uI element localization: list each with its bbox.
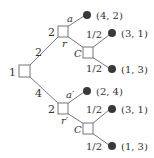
root-player-label: 1 [9, 66, 16, 79]
game-tree-diagram: 1 2 2 C C 2 4 a r a′ r′ 1/2 1/2 1/2 1/2 … [0, 0, 154, 158]
payoff-upper-chance-2: (1, 3) [121, 64, 148, 75]
lower-chance-label: C [74, 124, 82, 135]
lower-prob-1: 1/2 [86, 104, 102, 115]
root-node-box [19, 65, 30, 77]
terminal-dot-lower-accept [83, 87, 91, 95]
upper-reject-label: r [62, 38, 68, 49]
terminal-dot-upper-chance-2 [108, 65, 116, 73]
lower-player2-node-box [58, 103, 68, 114]
upper-player-label: 2 [48, 26, 55, 39]
edge-upper-reject [67, 36, 84, 48]
payoff-upper-accept: (4, 2) [96, 10, 123, 21]
terminal-dot-lower-chance-1 [108, 105, 116, 113]
root-edge-label-upper: 2 [35, 46, 42, 59]
upper-player2-node-box [58, 26, 68, 37]
edge-root-to-upper [29, 36, 59, 66]
payoff-upper-chance-1: (3, 1) [121, 28, 148, 39]
lower-player-label: 2 [48, 103, 55, 116]
terminal-dot-lower-chance-2 [108, 142, 116, 150]
payoff-lower-accept: (2, 4) [96, 86, 123, 97]
lower-reject-label: r′ [61, 115, 69, 126]
lower-accept-label: a′ [66, 89, 75, 100]
lower-chance-node-box [83, 123, 93, 134]
terminal-dot-upper-accept [83, 11, 91, 19]
upper-prob-1: 1/2 [86, 29, 102, 40]
upper-chance-node-box [83, 47, 93, 58]
payoff-lower-chance-1: (3, 1) [121, 104, 148, 115]
payoff-lower-chance-2: (1, 3) [121, 141, 148, 152]
terminal-dot-upper-chance-1 [108, 29, 116, 37]
upper-accept-label: a [67, 13, 73, 24]
lower-prob-2: 1/2 [86, 141, 102, 152]
upper-chance-label: C [74, 48, 82, 59]
edge-root-to-lower [29, 76, 59, 104]
upper-prob-2: 1/2 [86, 63, 102, 74]
edge-lower-reject [67, 113, 84, 124]
root-edge-label-lower: 4 [35, 87, 42, 100]
